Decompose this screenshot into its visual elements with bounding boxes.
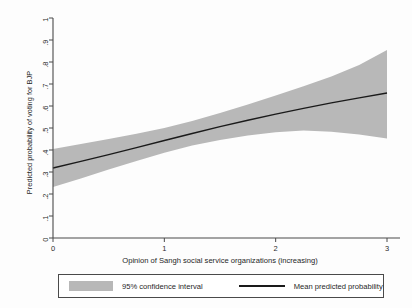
chart-legend: 95% confidence interval Mean predicted p… bbox=[58, 274, 384, 298]
y-tick-label: .9 bbox=[41, 40, 50, 56]
legend-item-mean-probability: Mean predicted probability bbox=[203, 275, 383, 297]
x-axis-title: Opinion of Sangh social service organiza… bbox=[53, 256, 387, 265]
y-tick-label: .5 bbox=[41, 128, 50, 144]
y-tick-label: .7 bbox=[41, 84, 50, 100]
x-tick-label: 2 bbox=[267, 244, 285, 253]
y-tick-label: .8 bbox=[41, 62, 50, 78]
legend-line-icon bbox=[239, 285, 285, 287]
y-tick-label: .6 bbox=[41, 106, 50, 122]
y-tick-label: .3 bbox=[41, 172, 50, 188]
y-tick-label: 1 bbox=[41, 18, 50, 34]
x-tick-label: 0 bbox=[44, 244, 62, 253]
x-tick-label: 3 bbox=[378, 244, 396, 253]
confidence-interval-band bbox=[53, 50, 387, 187]
x-tick-label: 1 bbox=[155, 244, 173, 253]
y-tick-label: .4 bbox=[41, 150, 50, 166]
chart-figure: 0.1.2.3.4.5.6.7.8.91 0123 Predicted prob… bbox=[0, 0, 412, 308]
y-tick-label: .1 bbox=[41, 216, 50, 232]
legend-swatch-icon bbox=[69, 281, 113, 291]
y-axis-title: Predicted probability of voting for BJP bbox=[25, 38, 34, 228]
legend-label-confidence-interval: 95% confidence interval bbox=[122, 282, 203, 291]
legend-item-confidence-interval: 95% confidence interval bbox=[59, 275, 203, 297]
y-tick-label: .2 bbox=[41, 194, 50, 210]
legend-label-mean-probability: Mean predicted probability bbox=[294, 282, 383, 291]
